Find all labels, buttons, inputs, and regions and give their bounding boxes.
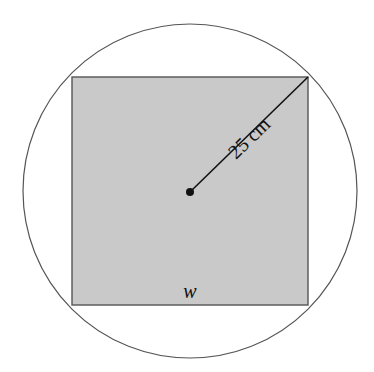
side-label: w [183,280,197,302]
center-point [186,188,194,196]
diagram-canvas: 25 cm w [0,0,374,372]
